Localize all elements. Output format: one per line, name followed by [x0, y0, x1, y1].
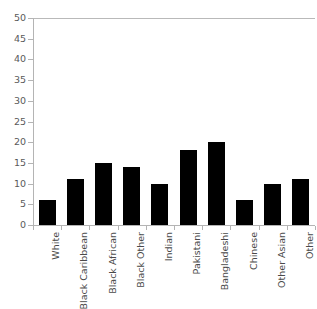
y-axis-tick-label: 35 [2, 75, 26, 85]
bar [67, 179, 84, 225]
x-axis-category-label: Indian [164, 232, 174, 261]
y-axis-tick-label: 40 [2, 55, 26, 65]
bar [292, 179, 309, 225]
x-axis-category-label: Pakistani [192, 232, 202, 274]
bar [95, 163, 112, 225]
bar [264, 184, 281, 225]
bar [151, 184, 168, 225]
bar [123, 167, 140, 225]
y-axis-tick-label: 5 [2, 200, 26, 210]
x-axis-tick-mark [89, 226, 90, 230]
bar [208, 142, 225, 225]
y-axis-tick-label: 10 [2, 179, 26, 189]
y-axis-tick-label: 30 [2, 96, 26, 106]
x-axis-category-label: Bangladeshi [220, 232, 230, 290]
x-axis-tick-mark [202, 226, 203, 230]
x-axis-category-label: Other Asian [277, 232, 287, 288]
y-axis-tick-label: 25 [2, 117, 26, 127]
y-axis-tick-label: 0 [2, 220, 26, 230]
bar [180, 150, 197, 225]
y-axis-tick-label: 20 [2, 137, 26, 147]
y-axis-tick-label: 50 [2, 13, 26, 23]
x-axis-tick-mark [146, 226, 147, 230]
x-axis-category-label: Chinese [249, 232, 259, 270]
x-axis-category-label: Black African [108, 232, 118, 294]
x-axis-category-label: Other [305, 232, 315, 259]
x-axis-tick-mark [118, 226, 119, 230]
bar [39, 200, 56, 225]
x-axis-tick-mark [287, 226, 288, 230]
y-axis-tick-label: 45 [2, 34, 26, 44]
y-axis-tick-label: 15 [2, 158, 26, 168]
bars-container [33, 18, 315, 225]
x-axis-tick-mark [315, 226, 316, 230]
x-axis-tick-mark [174, 226, 175, 230]
x-axis-category-label: Black Other [136, 232, 146, 288]
x-axis-tick-mark [230, 226, 231, 230]
x-axis-tick-mark [33, 226, 34, 230]
bar [236, 200, 253, 225]
x-axis-category-label: White [51, 232, 61, 260]
x-axis-category-label: Black Caribbean [79, 232, 89, 309]
x-axis-tick-mark [61, 226, 62, 230]
x-axis-tick-mark [259, 226, 260, 230]
